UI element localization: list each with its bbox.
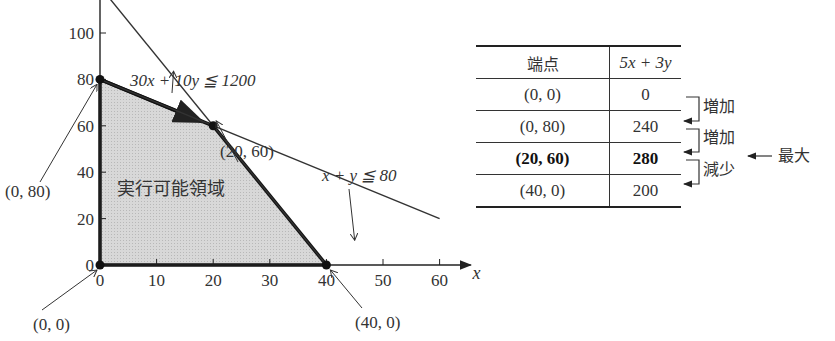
vertex-label: (40, 0): [355, 313, 400, 332]
constraint-label: x + y ≦ 80: [321, 166, 397, 185]
vertex-label: (0, 0): [33, 315, 70, 334]
x-tick-label: 30: [261, 271, 278, 290]
x-axis-label: x: [471, 263, 480, 283]
cell-point: (0, 80): [476, 111, 610, 143]
y-tick-label: 60: [77, 117, 94, 136]
y-tick-label: 100: [69, 24, 95, 43]
x-tick-label: 40: [318, 271, 335, 290]
cell-point: (20, 60): [476, 143, 610, 175]
table-row: (0, 0) 0: [476, 79, 681, 111]
vertex-pointer-arrow: [330, 270, 362, 308]
chart: 実行可能領域 xy0102030405060020406080100120140…: [0, 0, 835, 341]
y-tick-label: 40: [77, 163, 94, 182]
constraint-pointer-arrow: [349, 189, 355, 240]
vertex-point: [96, 75, 105, 84]
table-row-max: (20, 60) 280: [476, 143, 681, 175]
cell-point: (0, 0): [476, 79, 610, 111]
header-vertex: 端点: [476, 46, 610, 79]
x-tick-label: 50: [375, 271, 392, 290]
vertex-point: [96, 261, 105, 270]
cell-value: 200: [610, 175, 682, 208]
cell-value: 280: [610, 143, 682, 175]
feasible-region-label: 実行可能領域: [117, 178, 225, 199]
vertex-table: 端点 5x + 3y (0, 0) 0 (0, 80) 240 (20, 60)…: [476, 45, 681, 208]
y-tick-label: 20: [77, 210, 94, 229]
table-row: (0, 80) 240: [476, 111, 681, 143]
x-tick-label: 0: [96, 271, 105, 290]
cell-point: (40, 0): [476, 175, 610, 208]
constraint-label: 30x + 10y ≦ 1200: [129, 71, 256, 90]
x-tick-label: 10: [148, 271, 165, 290]
y-tick-label: 80: [77, 70, 94, 89]
vertex-label: (0, 80): [5, 182, 50, 201]
table-row: (40, 0) 200: [476, 175, 681, 208]
vertex-pointer-arrow: [42, 270, 97, 310]
cell-value: 0: [610, 79, 682, 111]
vertex-label: (20, 60): [220, 142, 274, 161]
header-objective: 5x + 3y: [610, 46, 682, 79]
y-tick-label: 0: [86, 256, 95, 275]
feasible-region: [100, 79, 326, 265]
vertex-point: [209, 121, 218, 130]
cell-value: 240: [610, 111, 682, 143]
vertex-point: [322, 261, 331, 270]
table-header-row: 端点 5x + 3y: [476, 46, 681, 79]
x-tick-label: 60: [431, 271, 448, 290]
x-tick-label: 20: [205, 271, 222, 290]
